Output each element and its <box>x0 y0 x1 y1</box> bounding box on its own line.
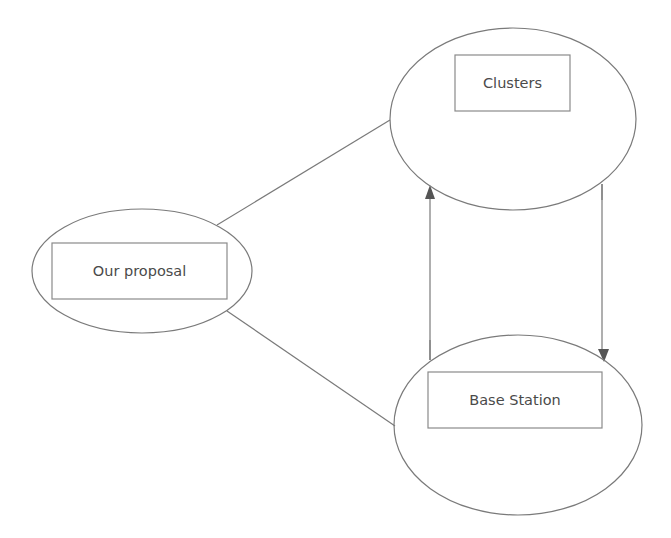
node-our-proposal: Our proposal <box>32 209 252 333</box>
base-station-label: Base Station <box>469 392 560 408</box>
diagram-canvas: Clusters Our proposal Base Station <box>0 0 671 538</box>
node-base-station: Base Station <box>394 335 642 515</box>
node-clusters: Clusters <box>390 28 636 210</box>
proposal-label: Our proposal <box>93 263 186 279</box>
arrowhead-up-icon <box>425 185 435 199</box>
edge-proposal-clusters <box>217 120 390 225</box>
clusters-label: Clusters <box>483 75 542 91</box>
edge-proposal-base-station <box>227 311 395 426</box>
